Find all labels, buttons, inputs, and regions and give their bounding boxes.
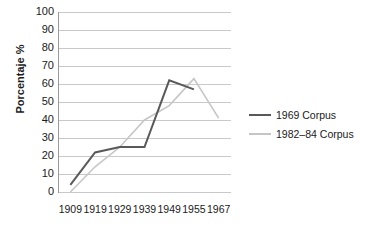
y-axis-tick-label: 100 (10, 6, 54, 17)
legend-color-swatch (249, 114, 271, 116)
y-axis-tick-label: 20 (10, 150, 54, 161)
legend-item-label: 1982–84 Corpus (276, 128, 354, 140)
x-axis-tick-label: 1967 (202, 203, 236, 215)
y-axis-tick-label: 60 (10, 78, 54, 89)
y-axis-tick-label: 40 (10, 114, 54, 125)
legend-item[interactable]: 1982–84 Corpus (249, 124, 369, 143)
y-axis-tick-label: 80 (10, 42, 54, 53)
y-axis-tick-label: 0 (10, 186, 54, 197)
legend-item-label: 1969 Corpus (276, 109, 336, 121)
series-lines (58, 12, 231, 193)
y-axis-tick-label: 30 (10, 132, 54, 143)
legend-color-swatch (249, 133, 271, 135)
y-axis-tick-label: 70 (10, 60, 54, 71)
series-line (70, 79, 218, 192)
y-axis-tick-label: 10 (10, 168, 54, 179)
line-chart: Porcentaje % 1009080706050403020100 1909… (0, 0, 372, 243)
chart-legend: 1969 Corpus1982–84 Corpus (249, 105, 369, 143)
y-axis-tick-label: 50 (10, 96, 54, 107)
legend-item[interactable]: 1969 Corpus (249, 105, 369, 124)
y-axis-tick-label: 90 (10, 24, 54, 35)
x-axis-tick-labels: 1909191919291939194919551967 (0, 203, 372, 219)
